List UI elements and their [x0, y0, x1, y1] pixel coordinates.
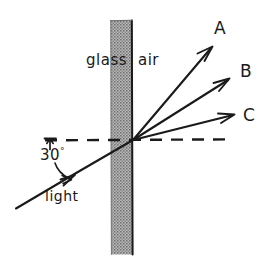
degree-symbol: ° — [60, 146, 65, 156]
air-label: air — [138, 53, 159, 68]
glass-label: glass — [86, 53, 127, 68]
glass-slab-right-edge — [132, 21, 133, 255]
diagram-canvas — [0, 0, 278, 265]
angle-label: 30° — [40, 147, 65, 163]
light-label: light — [45, 189, 79, 203]
optics-refraction-diagram: glass air 30° light A B C — [0, 0, 278, 265]
ray-b-line — [133, 80, 228, 140]
glass-slab-top-edge — [111, 20, 133, 21]
ray-b-label: B — [240, 63, 252, 80]
ray-c-label: C — [243, 107, 255, 124]
emergent-ray-b — [133, 79, 230, 141]
angle-value: 30 — [40, 146, 60, 164]
ray-c-line — [133, 115, 233, 140]
ray-a-label: A — [214, 20, 226, 37]
emergent-ray-c — [133, 114, 235, 141]
